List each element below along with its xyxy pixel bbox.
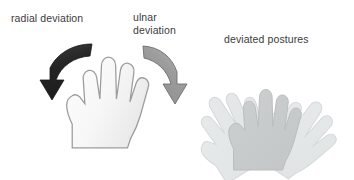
diagram-canvas: radial deviation ulnardeviation deviated…	[0, 0, 354, 180]
ulnar-deviation-arrow	[143, 46, 187, 104]
diagram-graphics	[0, 0, 354, 180]
posture-cluster	[180, 79, 349, 180]
main-hand	[67, 57, 149, 148]
